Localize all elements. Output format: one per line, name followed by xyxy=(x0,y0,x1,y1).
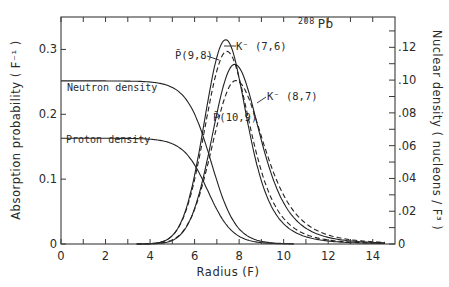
x-axis-title: Radius (F) xyxy=(197,265,260,279)
curve-neutron-density xyxy=(61,81,294,244)
y-right-tick-label: .02 xyxy=(398,204,416,218)
y-left-tick-label: 0.1 xyxy=(39,172,57,186)
absorption-density-chart: 0246810121400.10.20.30.02.04.06.08.10.12… xyxy=(0,0,449,287)
curve-p-10-9- xyxy=(137,81,385,244)
y-right-tick-label: .10 xyxy=(398,73,416,87)
y-left-tick-label: 0 xyxy=(50,237,57,251)
y-right-tick-label: 0 xyxy=(398,237,405,251)
nucleus-label: 208Pb xyxy=(298,17,334,31)
x-tick-label: 12 xyxy=(321,249,336,263)
nucleus-mass: 208 xyxy=(298,17,315,26)
neutron-density-label: Neutron density xyxy=(67,82,157,93)
k76-annotation: K⁻ (7,6) xyxy=(236,40,287,52)
y-axis-left-title: Absorption probability ( F⁻¹ ) xyxy=(9,40,23,220)
x-tick-label: 4 xyxy=(146,249,153,263)
curve-k-8-7- xyxy=(137,64,385,244)
y-axis-right-title: Nuclear density ( nucleons / F³ ) xyxy=(430,30,444,230)
proton-density-label: Proton density xyxy=(66,134,150,145)
y-right-tick-label: .04 xyxy=(398,171,416,185)
y-right-tick-label: .06 xyxy=(398,139,416,153)
y-right-tick-label: .12 xyxy=(398,40,416,54)
y-left-tick-label: 0.2 xyxy=(39,107,57,121)
x-tick-label: 0 xyxy=(57,249,64,263)
k87-leader-line xyxy=(257,97,266,103)
x-tick-label: 10 xyxy=(276,249,291,263)
curve-k-7-6- xyxy=(137,40,385,244)
p109-annotation: P̄(10,9) xyxy=(213,111,257,123)
x-tick-label: 2 xyxy=(102,249,109,263)
nucleus-symbol: Pb xyxy=(318,17,334,31)
x-tick-label: 14 xyxy=(365,249,380,263)
k87-annotation: K⁻ (8,7) xyxy=(267,90,318,102)
x-tick-label: 8 xyxy=(235,249,242,263)
y-right-tick-label: .08 xyxy=(398,106,416,120)
curve-p-9-8- xyxy=(137,51,385,244)
y-left-tick-label: 0.3 xyxy=(39,42,57,56)
p98-annotation: P̄(9,8) xyxy=(175,49,213,61)
x-tick-label: 6 xyxy=(191,249,198,263)
